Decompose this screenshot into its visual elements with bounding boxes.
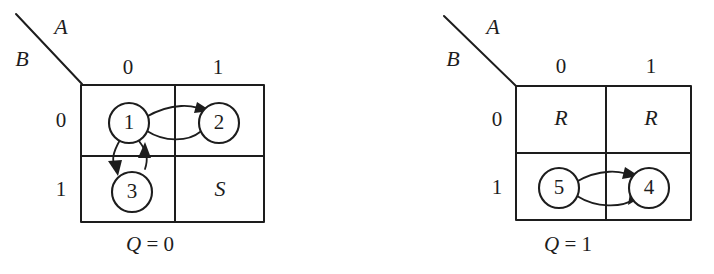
state-node-2-label: 2 [214,110,225,134]
panel-q1: A B 0 1 0 1 R R [444,14,691,256]
panel-q0-caption: Q = 0 [126,232,174,256]
state-node-4[interactable]: 4 [629,168,669,208]
state-node-4-label: 4 [644,175,655,199]
state-node-3-label: 3 [127,179,138,203]
state-node-1[interactable]: 1 [109,103,149,143]
axis-label-row-var: B [15,46,28,71]
arrowhead-to-3 [108,160,122,176]
cell-label-r-01: R [643,105,658,130]
row-header-1-right: 1 [492,175,503,199]
row-header-0-right: 0 [492,107,503,131]
arrowhead-to-1 [138,142,151,158]
column-header-1: 1 [213,55,224,79]
transition-1-to-3 [108,140,151,176]
row-header-0: 0 [56,108,67,132]
transition-arc-reverse [147,131,200,139]
column-header-0: 0 [123,55,134,79]
state-node-3[interactable]: 3 [112,172,152,212]
state-node-1-label: 1 [124,110,135,134]
axis-label-column-var: A [52,14,68,39]
state-node-2[interactable]: 2 [199,103,239,143]
grid-outer-border [81,85,264,222]
column-header-1-right: 1 [646,54,657,78]
grid-q0 [81,85,264,222]
panel-q0: A B 0 1 0 1 [15,14,264,256]
axis-label-row-var-right: B [446,46,459,71]
state-node-5[interactable]: 5 [539,168,579,208]
row-header-1: 1 [56,177,67,201]
figure-canvas: A B 0 1 0 1 [0,0,714,274]
state-node-5-label: 5 [554,175,565,199]
state-map-figure: A B 0 1 0 1 [0,0,714,274]
column-header-0-right: 0 [556,54,567,78]
cell-label-s: S [215,176,226,201]
panel-q1-caption: Q = 1 [544,232,592,256]
cell-label-r-00: R [553,105,568,130]
axis-label-column-var-right: A [484,14,500,39]
